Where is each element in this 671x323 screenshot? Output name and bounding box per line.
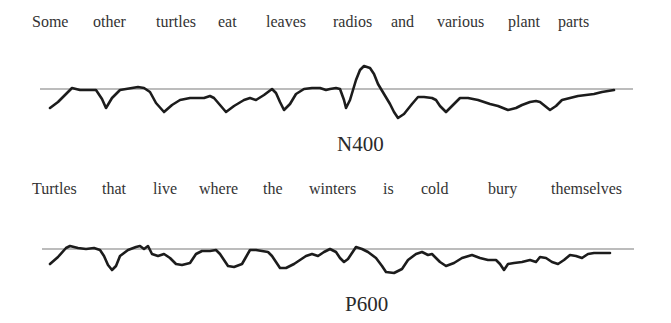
waveform-trace [50, 246, 610, 273]
component-label-p600: P600 [345, 292, 388, 317]
erp-waveform-p600 [0, 0, 671, 300]
